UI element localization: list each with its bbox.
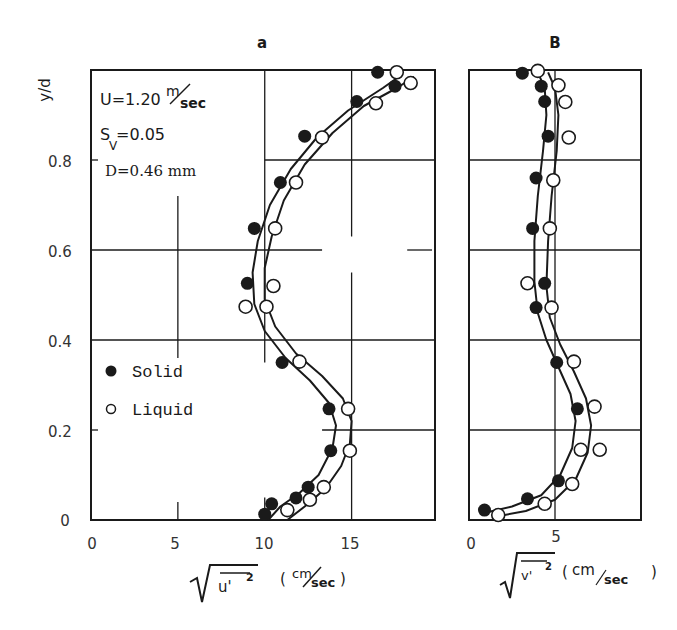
data-point-solid	[521, 492, 534, 505]
data-point-solid	[248, 222, 261, 235]
y-tick-0.8: 0.8	[48, 153, 72, 171]
a-xlabel-exp: 2	[246, 571, 254, 584]
b-xlabel-exp: 2	[545, 561, 552, 572]
b-xlabel-open-paren: (	[562, 563, 568, 581]
panel-b-x-axis-label: v' 2 ( cm sec )	[500, 553, 657, 598]
velocity-label: U=1.20	[100, 90, 161, 109]
legend-solid-label: Solid	[132, 363, 183, 382]
panel-b-title: B	[549, 34, 560, 52]
data-point-solid	[530, 301, 543, 314]
data-point-solid	[516, 67, 529, 80]
b-xlabel-close-paren: )	[651, 563, 657, 581]
data-point-liquid	[547, 174, 560, 187]
panel-b	[469, 64, 641, 521]
data-point-liquid	[521, 277, 534, 290]
data-point-liquid	[588, 400, 601, 413]
data-point-liquid	[593, 443, 606, 456]
data-point-liquid	[317, 481, 330, 494]
data-point-liquid	[260, 300, 273, 313]
y-tick-0.4: 0.4	[48, 333, 72, 351]
condition-annotation: U=1.20 m sec S V =0.05 D=0.46 mm	[100, 83, 206, 180]
data-point-solid	[302, 481, 315, 494]
a-xlabel-unit-den: sec	[311, 575, 335, 590]
data-point-liquid	[574, 443, 587, 456]
data-point-liquid	[492, 509, 505, 522]
data-point-solid	[552, 474, 565, 487]
diameter-label: D=0.46 mm	[105, 162, 196, 180]
a-x-tick-0: 0	[87, 535, 97, 553]
data-point-solid	[324, 444, 337, 457]
legend-liquid-marker-icon	[107, 405, 116, 414]
data-point-liquid	[239, 300, 252, 313]
data-point-liquid	[538, 497, 551, 510]
data-point-solid	[276, 356, 289, 369]
a-x-tick-15: 15	[340, 535, 359, 553]
velocity-unit-den: sec	[180, 95, 206, 111]
panel-a-liquid-curve	[265, 77, 415, 520]
chart-canvas: y/d a B 0 0.2 0.4 0.6 0.8 U=1.20 m sec S…	[0, 0, 677, 630]
a-x-tick-10: 10	[254, 535, 273, 553]
legend-liquid-label: Liquid	[132, 401, 193, 420]
y-tick-0: 0	[60, 512, 70, 530]
data-point-liquid	[567, 355, 580, 368]
y-axis-label: y/d	[36, 78, 54, 101]
data-point-liquid	[290, 176, 303, 189]
a-x-tick-5: 5	[170, 535, 180, 553]
data-point-liquid	[267, 280, 280, 293]
b-xlabel-unit-den: sec	[604, 572, 628, 587]
y-tick-labels: 0 0.2 0.4 0.6 0.8	[48, 153, 72, 530]
data-point-solid	[538, 277, 551, 290]
data-point-liquid	[562, 131, 575, 144]
data-point-liquid	[545, 301, 558, 314]
data-point-solid	[274, 176, 287, 189]
data-point-liquid	[269, 222, 282, 235]
data-point-solid	[265, 497, 278, 510]
data-point-liquid	[552, 79, 565, 92]
b-x-tick-5: 5	[551, 528, 561, 546]
data-point-liquid	[543, 222, 556, 235]
data-point-solid	[323, 402, 336, 415]
data-point-liquid	[559, 95, 572, 108]
a-xlabel-close-paren: )	[340, 570, 346, 588]
figure: y/d a B 0 0.2 0.4 0.6 0.8 U=1.20 m sec S…	[0, 0, 677, 630]
data-point-solid	[571, 402, 584, 415]
a-xlabel-var: u'	[218, 578, 232, 596]
legend: Solid Liquid	[106, 363, 194, 420]
data-point-solid	[526, 222, 539, 235]
panel-b-grid	[469, 70, 641, 520]
data-point-liquid	[281, 504, 294, 517]
a-xlabel-open-paren: (	[280, 570, 286, 588]
data-point-solid	[389, 80, 402, 93]
data-point-liquid	[316, 131, 329, 144]
data-point-solid	[550, 356, 563, 369]
b-xlabel-unit-num: cm	[572, 561, 595, 579]
y-tick-0.6: 0.6	[48, 243, 72, 261]
data-point-solid	[350, 95, 363, 108]
data-point-liquid	[404, 77, 417, 90]
concentration-value: =0.05	[116, 125, 165, 144]
data-point-solid	[478, 504, 491, 517]
y-tick-0.2: 0.2	[48, 423, 72, 441]
data-point-solid	[371, 66, 384, 79]
data-point-solid	[530, 172, 543, 185]
b-x-tick-0: 0	[466, 535, 476, 553]
a-xlabel-unit-num: cm	[292, 566, 312, 581]
legend-solid-marker-icon	[106, 366, 117, 377]
data-point-liquid	[369, 97, 382, 110]
data-point-liquid	[342, 402, 355, 415]
data-point-liquid	[390, 66, 403, 79]
data-point-liquid	[531, 64, 544, 77]
data-point-solid	[542, 130, 555, 143]
data-point-liquid	[303, 493, 316, 506]
panel-a-x-tick-labels: 0 5 10 15	[87, 535, 359, 553]
data-point-solid	[298, 130, 311, 143]
data-point-liquid	[343, 444, 356, 457]
panel-b-x-tick-labels: 0 5	[466, 528, 561, 553]
data-point-solid	[535, 80, 548, 93]
panel-a-title: a	[257, 34, 267, 52]
panel-a-x-axis-label: u' 2 ( cm sec )	[190, 565, 346, 602]
b-xlabel-var: v'	[521, 568, 532, 583]
data-point-liquid	[566, 478, 579, 491]
data-point-liquid	[293, 355, 306, 368]
data-point-solid	[538, 95, 551, 108]
